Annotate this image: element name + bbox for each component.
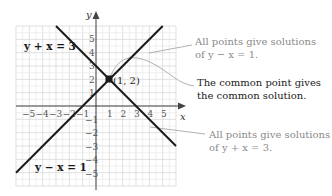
x-tick: 2 <box>121 109 127 119</box>
x-tick: −5 <box>22 109 36 119</box>
y-tick: 4 <box>89 48 95 58</box>
annotation-common-point: The common point gives the common soluti… <box>197 77 321 101</box>
annotation-line: The common point gives <box>197 77 321 88</box>
y-tick: 2 <box>89 75 95 85</box>
x-tick: 5 <box>161 109 167 119</box>
y-tick: −1 <box>85 115 98 125</box>
annotation-line: of y + x = 3. <box>209 142 272 153</box>
coordinate-diagram: x y −5 −4 −3 −2 −1 1 2 3 4 5 5 4 3 2 1 −… <box>0 0 332 196</box>
y-tick: 5 <box>89 34 95 44</box>
annotation-line: of y − x = 1. <box>195 49 258 60</box>
y-tick: −4 <box>85 155 99 165</box>
x-tick: −4 <box>36 109 50 119</box>
annotation-line: the common solution. <box>197 90 306 101</box>
callout-lines <box>110 45 205 134</box>
y-tick: −2 <box>85 128 98 138</box>
x-axis-arrow-icon <box>178 103 186 110</box>
y-tick: −5 <box>85 169 99 179</box>
y-axis-label: y <box>85 9 92 20</box>
annotation-y-plus-x: All points give solutions of y + x = 3. <box>208 129 330 153</box>
y-tick: −3 <box>85 142 99 152</box>
intersection-label: (1, 2) <box>113 75 140 86</box>
intersection-point-marker <box>106 76 113 83</box>
equation-label-y-minus-x: y − x = 1 <box>34 161 87 173</box>
annotation-line: All points give solutions <box>208 129 330 140</box>
x-tick: −3 <box>49 109 63 119</box>
annotation-line: All points give solutions <box>194 36 316 47</box>
x-axis-label: x <box>180 111 186 122</box>
equation-label-y-plus-x: y + x = 3 <box>23 40 76 52</box>
x-tick: 1 <box>107 109 113 119</box>
y-axis-arrow-icon <box>93 11 100 19</box>
annotation-y-minus-x: All points give solutions of y − x = 1. <box>194 36 316 60</box>
